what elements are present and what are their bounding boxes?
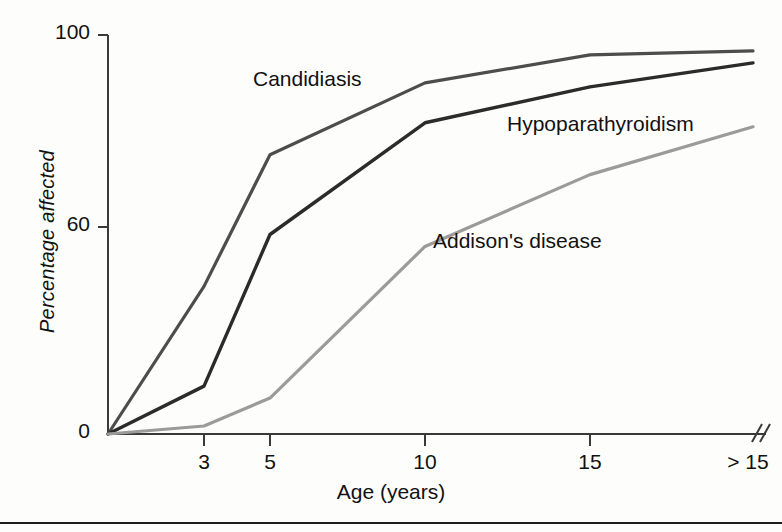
x-tick-label-over-15: > 15	[713, 450, 782, 474]
x-axis-title: Age (years)	[0, 480, 782, 504]
y-tick-label-0: 0	[26, 419, 90, 443]
y-axis-title: Percentage affected	[36, 142, 59, 342]
line-chart-plot	[0, 0, 782, 532]
x-tick-label-5: 5	[240, 450, 300, 474]
x-tick-label-3: 3	[174, 450, 234, 474]
x-tick-label-15: 15	[560, 450, 620, 474]
x-tick-label-10: 10	[395, 450, 455, 474]
chart-figure: 100 60 0 3 5 10 15 > 15 Percentage affec…	[0, 0, 782, 532]
series-line-addisons-disease	[108, 127, 753, 434]
series-label-candidiasis: Candidiasis	[253, 67, 362, 91]
series-label-hypoparathyroidism: Hypoparathyroidism	[507, 112, 694, 136]
series-label-addisons-disease: Addison's disease	[433, 229, 602, 253]
y-tick-label-100: 100	[26, 20, 90, 44]
figure-bottom-rule	[0, 522, 782, 524]
